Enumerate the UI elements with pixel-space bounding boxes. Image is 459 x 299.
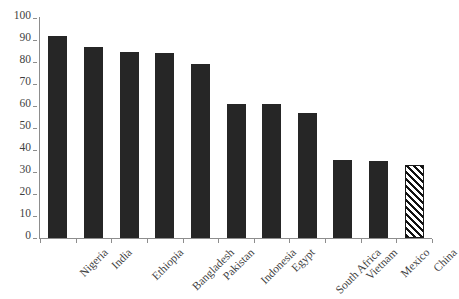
bar: [191, 64, 210, 238]
bar: [369, 161, 388, 238]
x-axis-tick-label: Mexico: [398, 246, 431, 279]
y-axis-tick-mark: [33, 128, 37, 129]
y-axis-tick-label: 50: [20, 120, 32, 132]
x-axis-tick-label: China: [431, 246, 459, 274]
bar: [298, 113, 317, 238]
y-axis-tick-label: 10: [20, 208, 32, 220]
y-axis-tick-mark: [33, 40, 37, 41]
y-axis-tick-label: 20: [20, 186, 32, 198]
bar: [48, 36, 67, 238]
bar: [405, 165, 424, 238]
x-axis-labels: NigeriaIndiaEthiopiaBangladeshPakistanIn…: [0, 238, 442, 299]
x-axis-tick-label: Ethiopia: [149, 246, 185, 282]
x-axis-tick-label: Nigeria: [77, 246, 110, 279]
bar: [155, 53, 174, 238]
y-axis-tick-label: 30: [20, 164, 32, 176]
y-axis-tick-mark: [33, 216, 37, 217]
y-axis-tick-label: 100: [14, 10, 31, 22]
y-axis-tick-mark: [33, 194, 37, 195]
y-axis-tick-label: 60: [20, 98, 32, 110]
bar: [84, 47, 103, 238]
x-axis-tick-label: India: [109, 246, 134, 271]
bar: [227, 104, 246, 238]
y-axis-tick-label: 40: [20, 142, 32, 154]
y-axis-tick-label: 80: [20, 54, 32, 66]
y-axis-tick-mark: [33, 62, 37, 63]
y-axis-tick-mark: [33, 150, 37, 151]
y-axis-tick-label: 70: [20, 76, 32, 88]
bar: [333, 160, 352, 238]
y-axis-tick-mark: [33, 18, 37, 19]
bars-layer: [40, 18, 432, 238]
y-axis-tick-label: 90: [20, 32, 32, 44]
y-axis-tick-mark: [33, 172, 37, 173]
bar: [262, 104, 281, 238]
y-axis-tick-mark: [33, 84, 37, 85]
bar: [120, 52, 139, 238]
y-axis-tick-mark: [33, 106, 37, 107]
